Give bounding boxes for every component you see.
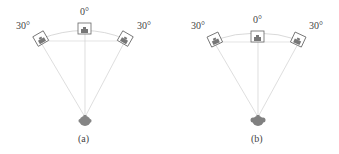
label-center-angle-a: 0° [80, 6, 89, 17]
speaker-right-a-icon [117, 31, 133, 47]
panel-a [33, 23, 133, 126]
label-right-angle-a: 30° [137, 20, 151, 31]
diagram-canvas [0, 0, 339, 154]
ray-right-b [258, 42, 299, 117]
panel-b [207, 31, 306, 126]
ray-left-b [214, 42, 258, 117]
ray-right-a [85, 41, 125, 117]
speaker-left-b-icon [207, 32, 223, 47]
caption-b: (b) [251, 133, 263, 144]
label-left-angle-a: 30° [16, 20, 30, 31]
label-left-angle-b: 30° [191, 20, 205, 31]
speaker-right-b-icon [290, 32, 306, 47]
listener-head-b-icon [251, 115, 266, 126]
speaker-center-b-icon [251, 31, 264, 42]
listener-head-a-icon [79, 115, 92, 126]
speaker-left-a-icon [33, 31, 49, 47]
ray-left-a [40, 41, 85, 117]
caption-a: (a) [78, 133, 89, 144]
label-right-angle-b: 30° [309, 20, 323, 31]
speaker-center-a-icon [78, 23, 91, 34]
label-center-angle-b: 0° [253, 14, 262, 25]
